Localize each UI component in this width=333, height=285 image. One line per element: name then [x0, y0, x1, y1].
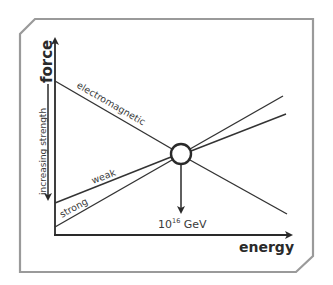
unification-energy-base: 10 — [158, 218, 172, 231]
y-axis-label: force — [38, 40, 56, 83]
increasing-strength-label: increasing strength — [38, 108, 48, 195]
x-axis-label: energy — [239, 239, 294, 255]
unification-energy-exponent: 16 — [172, 217, 180, 225]
unification-energy-unit: GeV — [180, 218, 207, 231]
unification-point-circle — [171, 144, 191, 164]
force-unification-diagram: force increasing strength electromagneti… — [0, 0, 333, 285]
unification-energy-label: 1016 GeV — [158, 217, 207, 231]
